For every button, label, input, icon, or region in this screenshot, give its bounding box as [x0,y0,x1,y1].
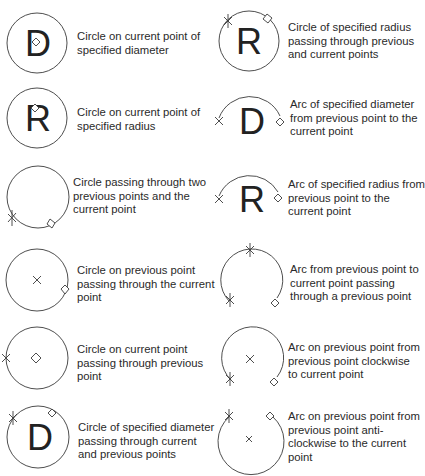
svg-text:R: R [236,21,262,62]
caption-line: passing through current [78,435,214,449]
caption-line: to current point [288,368,420,382]
caption-line: Circle of specified radius [288,21,414,35]
caption-arc-radius: Arc of specified radius from previous po… [288,178,425,219]
caption-line: passing through the current [77,278,215,292]
caption-line: Circle on previous point [77,264,215,278]
caption-line: Arc on previous point from [288,341,420,355]
circle-on-previous-through-current-icon [6,249,69,311]
caption-line: clockwise to the current [288,437,420,451]
caption-line: current point [73,203,206,217]
arc-radius-icon: R [215,176,282,220]
caption-circle-on-current: Circle on current point passing through … [77,343,203,384]
caption-circle-radius-through-points: Circle of specified radius passing throu… [288,21,414,62]
caption-line: specified diameter [77,44,200,58]
arc-clockwise-icon [222,327,284,386]
svg-text:R: R [25,98,51,139]
circle-radius-through-points-icon: R [219,11,279,71]
caption-line: Circle passing through two [73,176,206,190]
caption-line: passing through previous [288,35,414,49]
svg-text:D: D [239,101,265,142]
caption-line: from previous point to the [290,112,417,126]
circle-on-current-through-previous-icon [2,327,68,389]
caption-line: Arc from previous point to [290,263,419,277]
arc-three-points-icon [221,243,283,307]
caption-arc-clockwise: Arc on previous point from previous poin… [288,341,420,382]
svg-text:D: D [27,417,53,458]
caption-line: previous point anti- [288,424,420,438]
caption-line: and previous points [78,448,214,462]
caption-line: Circle on current point [77,343,203,357]
caption-line: previous points and the [73,190,206,204]
circle-diameter-current-icon: D [7,13,67,73]
caption-line: point [288,451,420,465]
caption-line: specified radius [77,120,200,134]
caption-line: point [77,370,203,384]
caption-line: and current points [288,48,414,62]
svg-text:R: R [239,179,265,220]
caption-line: passing through previous [77,357,203,371]
caption-circle-on-previous: Circle on previous point passing through… [77,264,215,305]
caption-line: current point [288,205,425,219]
circle-diameter-through-points-icon: D [7,406,69,468]
arc-anticlockwise-icon [218,409,284,475]
caption-circle-three-points: Circle passing through two previous poin… [73,176,206,217]
caption-line: Arc on previous point from [288,410,420,424]
caption-arc-anticlockwise: Arc on previous point from previous poin… [288,410,420,464]
caption-circle-diameter-current: Circle on current point of specified dia… [77,30,200,57]
caption-line: through a previous point [290,290,419,304]
arc-diameter-icon: D [215,97,284,142]
caption-line: Circle on current point of [77,30,200,44]
circle-radius-current-icon: R [7,88,67,148]
caption-line: Circle of specified diameter [78,421,214,435]
caption-arc-three-points: Arc from previous point to current point… [290,263,419,304]
caption-line: point [77,291,215,305]
caption-line: current point [290,125,417,139]
caption-circle-radius-current: Circle on current point of specified rad… [77,106,200,133]
circle-three-points-icon [7,166,69,228]
caption-arc-diameter: Arc of specified diameter from previous … [290,98,417,139]
caption-line: previous point to the [288,192,425,206]
caption-line: Circle on current point of [77,106,200,120]
caption-circle-diameter-through-points: Circle of specified diameter passing thr… [78,421,214,462]
caption-line: previous point clockwise [288,355,420,369]
caption-line: current point passing [290,277,419,291]
caption-line: Arc of specified radius from [288,178,425,192]
caption-line: Arc of specified diameter [290,98,417,112]
